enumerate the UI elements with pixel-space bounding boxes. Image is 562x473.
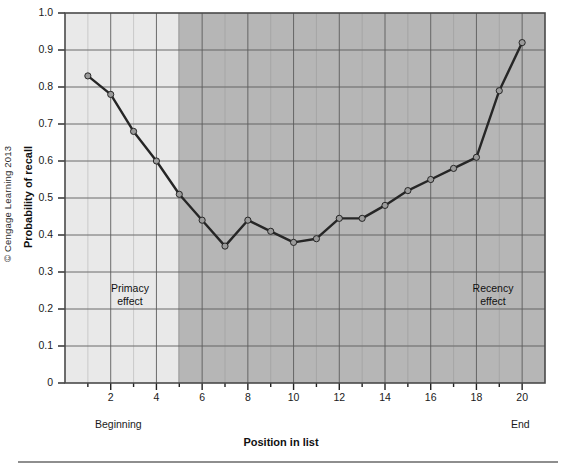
data-point [176,191,182,197]
annotation-primacy-effect: Primacy effect [100,282,160,308]
data-point [222,243,228,249]
data-point [428,176,434,182]
data-point [245,217,251,223]
data-point [268,228,274,234]
data-point [199,217,205,223]
y-tick-label: 0.6 [23,154,53,166]
y-tick-label: 0.5 [23,191,53,203]
y-tick-label: 0.9 [23,43,53,55]
y-tick-label: 0.3 [23,265,53,277]
data-point [382,202,388,208]
data-point [108,91,114,97]
data-point [405,188,411,194]
y-tick-label: 0 [23,376,53,388]
y-tick-label: 0.4 [23,228,53,240]
x-tick-label: 14 [373,391,397,403]
x-axis-begin-label: Beginning [95,418,142,430]
data-point [290,239,296,245]
annotation-recency-effect: Recency effect [462,282,524,308]
y-tick-label: 1.0 [23,6,53,18]
data-point [519,40,525,46]
y-tick-label: 0.2 [23,302,53,314]
data-point [313,236,319,242]
copyright-notice: © Cengage Learning 2013 [2,112,14,262]
data-point [153,158,159,164]
x-tick-label: 12 [327,391,351,403]
data-point [85,73,91,79]
data-point [130,128,136,134]
x-tick-label: 8 [236,391,260,403]
data-point [336,215,342,221]
data-point [473,154,479,160]
y-tick-label: 0.1 [23,339,53,351]
figure-divider-rule [18,461,558,463]
data-point [496,88,502,94]
x-tick-label: 2 [99,391,123,403]
y-tick-label: 0.7 [23,117,53,129]
x-tick-label: 18 [464,391,488,403]
data-point [450,165,456,171]
x-tick-label: 20 [510,391,534,403]
x-axis-end-label: End [511,418,530,430]
x-tick-label: 16 [419,391,443,403]
x-tick-label: 10 [282,391,306,403]
serial-position-curve-figure: Probability of recall Position in list B… [0,0,562,473]
y-tick-label: 0.8 [23,80,53,92]
data-point [359,215,365,221]
x-tick-label: 4 [144,391,168,403]
x-tick-label: 6 [190,391,214,403]
x-axis-label: Position in list [0,436,562,448]
